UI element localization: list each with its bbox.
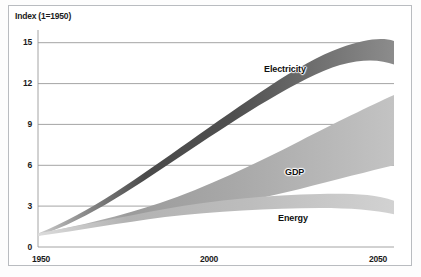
series-label-gdp: GDP (285, 167, 304, 177)
x-tick-2050: 2050 (369, 254, 387, 264)
y-tick-12: 12 (10, 78, 32, 88)
x-tick-1950: 1950 (32, 254, 50, 264)
y-tick-9: 9 (10, 119, 32, 129)
y-tick-6: 6 (10, 160, 32, 170)
y-tick-3: 3 (10, 201, 32, 211)
y-tick-0: 0 (10, 242, 32, 252)
chart-plot-area (0, 0, 421, 277)
series-label-energy: Energy (278, 213, 308, 223)
series-label-electricity: Electricity (264, 64, 306, 74)
x-tick-2000: 2000 (200, 254, 218, 264)
y-tick-15: 15 (10, 37, 32, 47)
chart-axis-title: Index (1=1950) (15, 11, 71, 21)
chart-figure: Index (1=1950) 15 12 9 6 3 0 1950 2000 2… (0, 0, 421, 277)
